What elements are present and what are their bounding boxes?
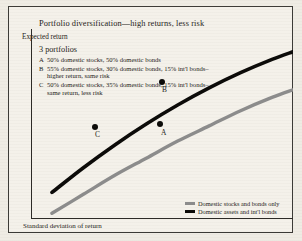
point-label-c: C (95, 130, 100, 139)
chart-frame: Portfolio diversification—high returns, … (8, 6, 293, 233)
page-title: Portfolio diversification—high returns, … (39, 19, 204, 28)
legend-label-with-intl: Domestic assets and int'l bonds (198, 208, 277, 215)
point-label-a: A (161, 128, 166, 137)
point-marker-a (157, 121, 163, 127)
point-label-b: B (162, 85, 167, 94)
legend-item-with-intl: Domestic assets and int'l bonds (185, 208, 293, 215)
legend-item-domestic-only: Domestic stocks and bonds only (185, 200, 293, 207)
curve-with-intl-bonds (52, 52, 293, 193)
chart-legend: Domestic stocks and bonds only Domestic … (185, 200, 293, 216)
legend-swatch-black (185, 210, 195, 212)
legend-swatch-gray (185, 202, 195, 204)
x-axis-label: Standard deviation of return (23, 222, 102, 230)
legend-label-domestic-only: Domestic stocks and bonds only (198, 200, 280, 207)
chart-page: Portfolio diversification—high returns, … (0, 0, 302, 241)
